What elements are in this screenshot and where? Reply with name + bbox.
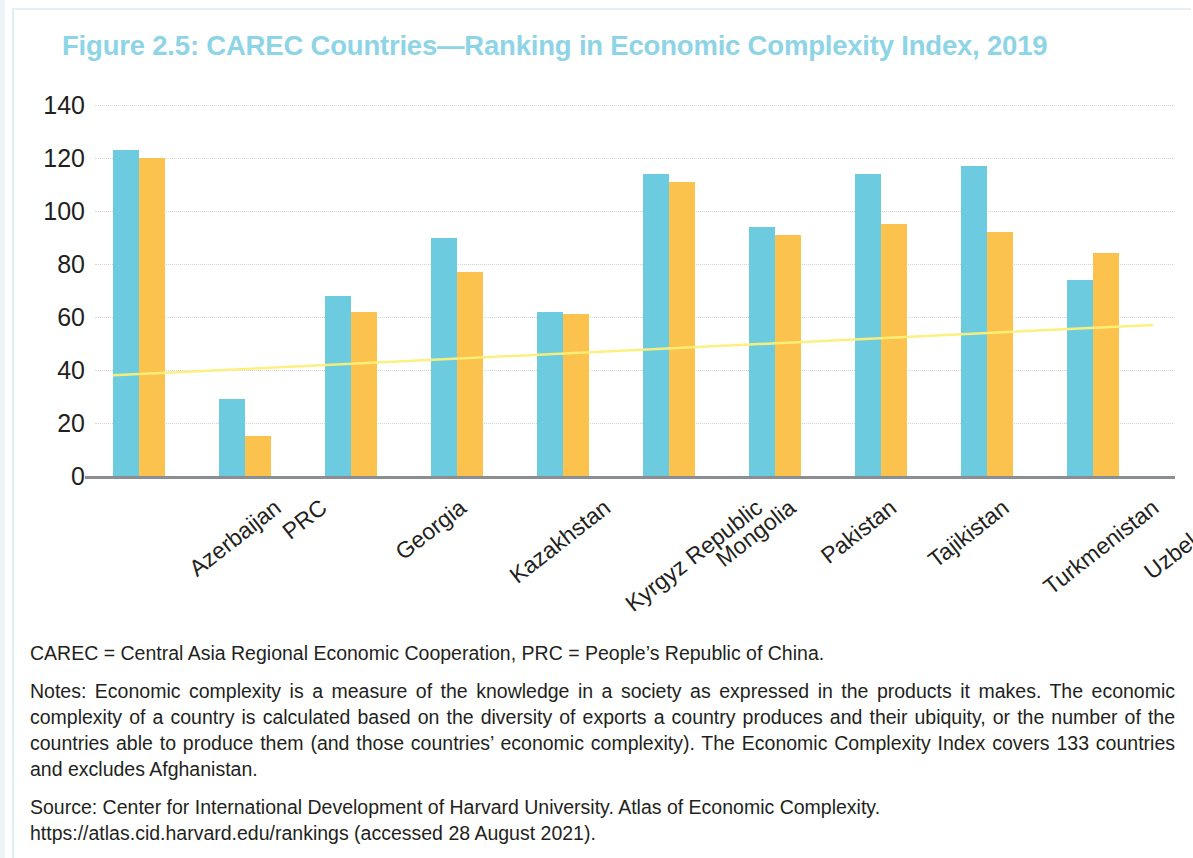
bar bbox=[431, 238, 457, 477]
bar-group bbox=[537, 105, 589, 476]
bar bbox=[881, 224, 907, 476]
page-edge-artifact bbox=[0, 0, 5, 858]
y-axis-labels: 140120100806040200 bbox=[10, 105, 85, 476]
bar bbox=[245, 436, 271, 476]
bar bbox=[139, 158, 165, 476]
x-axis-labels: AzerbaijanPRCGeorgiaKazakhstanKyrgyz Rep… bbox=[0, 476, 1193, 626]
figure-container: Figure 2.5: CAREC Countries—Ranking in E… bbox=[0, 0, 1193, 858]
footnotes: CAREC = Central Asia Regional Economic C… bbox=[30, 640, 1175, 846]
bar-group bbox=[431, 105, 483, 476]
bar bbox=[351, 312, 377, 476]
bar-group bbox=[113, 105, 165, 476]
bar bbox=[669, 182, 695, 476]
y-axis-tick-label: 40 bbox=[15, 356, 85, 385]
bar bbox=[325, 296, 351, 476]
x-axis-tick-label: Azerbaijan bbox=[184, 494, 286, 582]
x-axis-tick-label: Kazakhstan bbox=[504, 494, 615, 589]
bar bbox=[113, 150, 139, 476]
x-axis-tick-label: Turkmenistan bbox=[1038, 494, 1164, 601]
y-axis-tick-label: 140 bbox=[15, 91, 85, 120]
bar-group bbox=[643, 105, 695, 476]
bar-group bbox=[325, 105, 377, 476]
bar bbox=[643, 174, 669, 476]
y-axis-tick-label: 120 bbox=[15, 144, 85, 173]
bar bbox=[987, 232, 1013, 476]
page-border-horizontal bbox=[12, 8, 1191, 10]
notes-paragraph: Notes: Economic complexity is a measure … bbox=[30, 678, 1175, 782]
bar bbox=[961, 166, 987, 476]
bar bbox=[855, 174, 881, 476]
bar-group bbox=[961, 105, 1013, 476]
x-axis-tick-label: Pakistan bbox=[816, 494, 902, 570]
bar bbox=[1093, 253, 1119, 476]
bar-group bbox=[749, 105, 801, 476]
bar-group bbox=[1067, 105, 1119, 476]
bar bbox=[563, 314, 589, 476]
y-axis-tick-label: 100 bbox=[15, 197, 85, 226]
source-line: Source: Center for International Develop… bbox=[30, 794, 1175, 846]
y-axis-tick-label: 80 bbox=[15, 250, 85, 279]
bar-group bbox=[855, 105, 907, 476]
bar bbox=[775, 235, 801, 476]
bar-group bbox=[219, 105, 271, 476]
bar bbox=[1067, 280, 1093, 476]
x-axis-tick-label: Tajikistan bbox=[923, 494, 1014, 574]
bar bbox=[219, 399, 245, 476]
y-axis-tick-label: 20 bbox=[15, 409, 85, 438]
bar bbox=[749, 227, 775, 476]
x-axis-tick-label: PRC bbox=[277, 494, 332, 545]
plot-area bbox=[95, 105, 1173, 476]
y-axis-tick-label: 60 bbox=[15, 303, 85, 332]
bar bbox=[537, 312, 563, 476]
abbreviations-line: CAREC = Central Asia Regional Economic C… bbox=[30, 640, 1175, 666]
page-title: Figure 2.5: CAREC Countries—Ranking in E… bbox=[62, 30, 1172, 62]
bar bbox=[457, 272, 483, 476]
x-axis-tick-label: Georgia bbox=[390, 494, 471, 566]
